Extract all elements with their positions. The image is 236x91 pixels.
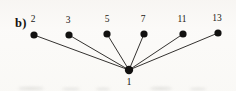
vertex-label-7: 7 [141, 15, 146, 25]
graph-vertex-1 [125, 66, 133, 74]
vertex-label-3: 3 [66, 16, 71, 26]
vertex-label-5: 5 [105, 15, 110, 25]
graph-vertex-3 [65, 31, 72, 38]
graph-vertices [30, 29, 221, 74]
graph-vertex-2 [30, 31, 37, 38]
figure-panel-b: b) 235711131 [0, 0, 236, 91]
graph-vertex-5 [103, 30, 110, 37]
vertex-label-1: 1 [127, 77, 132, 87]
vertex-label-2: 2 [31, 15, 36, 25]
graph-vertex-11 [179, 30, 186, 37]
graph-edge-1-3 [69, 35, 129, 70]
graph-edge-1-2 [34, 35, 129, 70]
vertex-label-11: 11 [177, 15, 186, 25]
panel-label-b: b) [15, 17, 27, 30]
graph-vertex-7 [140, 30, 147, 37]
vertex-label-13: 13 [212, 14, 222, 24]
graph-vertex-13 [214, 29, 221, 36]
graph-edge-1-11 [129, 34, 183, 70]
graph-edges [34, 33, 218, 70]
graph-edge-1-5 [107, 34, 129, 70]
